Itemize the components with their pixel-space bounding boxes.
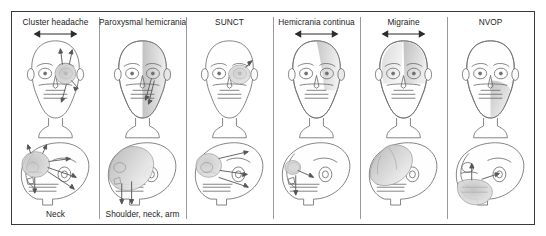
pain-region-periorbital bbox=[55, 63, 76, 84]
frontal-skull-face-icon bbox=[462, 41, 518, 138]
panel-artwork bbox=[360, 29, 447, 208]
pain-region-orbital-maxillary bbox=[285, 161, 301, 175]
frontal-skull-face-icon bbox=[288, 41, 344, 138]
panel-artwork bbox=[273, 29, 360, 208]
panel-title: Hemicrania continua bbox=[273, 17, 360, 27]
panel-artwork bbox=[186, 29, 273, 208]
frontal-skull-face-icon bbox=[375, 41, 431, 138]
panel-title: SUNCT bbox=[186, 17, 273, 27]
headache-distribution-figure: Cluster headache bbox=[11, 11, 535, 225]
panel-title: NVOP bbox=[447, 17, 534, 27]
pain-region-periorbital-localized bbox=[229, 65, 251, 84]
panel-artwork bbox=[12, 29, 99, 208]
panel-artwork bbox=[447, 29, 534, 208]
frontal-skull-face-icon bbox=[114, 41, 170, 138]
pain-region-orbital-lateral bbox=[22, 152, 50, 178]
span-arrow-icon bbox=[35, 31, 77, 37]
panel-sunct: SUNCT bbox=[186, 12, 273, 224]
panel-paroxysmal-hemicrania: Paroxysmal hemicrania bbox=[99, 12, 186, 224]
frontal-skull-face-icon bbox=[201, 41, 257, 138]
panel-title: Migraine bbox=[360, 17, 447, 27]
pain-region-mandible bbox=[457, 179, 492, 204]
panel-title: Cluster headache bbox=[12, 17, 99, 27]
panel-migraine: Migraine bbox=[360, 12, 447, 224]
panel-artwork bbox=[99, 29, 186, 208]
pain-region-orbital-lateral bbox=[196, 154, 222, 178]
panel-footer-label: Neck bbox=[12, 209, 99, 219]
span-arrow-icon bbox=[383, 31, 425, 37]
span-arrow-icon bbox=[296, 31, 338, 37]
panel-cluster-headache: Cluster headache bbox=[12, 12, 99, 224]
panel-title: Paroxysmal hemicrania bbox=[99, 17, 186, 27]
panel-footer-label: Shoulder, neck, arm bbox=[99, 209, 186, 219]
panel-hemicrania-continua: Hemicrania continua bbox=[273, 12, 360, 224]
panel-nvop: NVOP bbox=[447, 12, 534, 224]
